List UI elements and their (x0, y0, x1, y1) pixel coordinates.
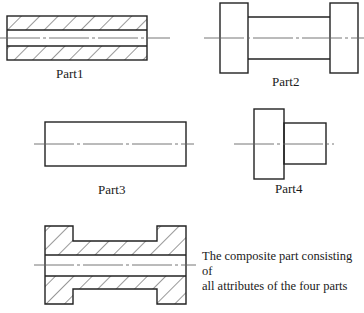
composite-caption: The composite part consisting of all att… (202, 249, 364, 294)
composite-drawing (34, 226, 196, 304)
part2-label: Part2 (272, 74, 299, 90)
part3-drawing (34, 122, 194, 166)
part1-drawing (0, 16, 170, 60)
composite-caption-line1: The composite part consisting of (202, 249, 364, 279)
part1-label: Part1 (56, 66, 83, 82)
composite-caption-line2: all attributes of the four parts (202, 279, 364, 294)
part4-drawing (234, 109, 334, 179)
part4-shaft (284, 123, 326, 164)
part4-label: Part4 (275, 181, 302, 197)
part3-label: Part3 (98, 182, 125, 198)
part1-upper-wall (7, 16, 147, 30)
part2-drawing (204, 3, 364, 73)
part1-lower-wall (7, 46, 147, 60)
composite-lower-section (45, 276, 186, 304)
